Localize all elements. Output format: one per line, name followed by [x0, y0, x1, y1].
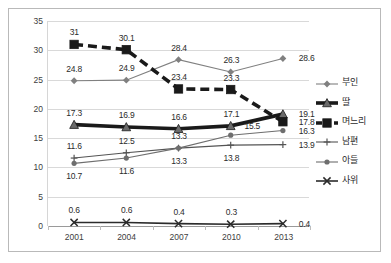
data-point-label: 30.1 — [119, 33, 135, 43]
legend-item-사위[interactable]: 사위 — [315, 170, 377, 190]
x-axis-tick-label: 2010 — [222, 232, 241, 242]
plus-marker — [227, 142, 234, 149]
plus-marker — [71, 155, 78, 162]
y-axis-tick-label: 15 — [34, 133, 43, 143]
legend-key-swatch — [315, 115, 339, 127]
x-axis-tick-mark — [153, 226, 154, 230]
series-line — [74, 44, 283, 121]
legend-label: 아들 — [342, 153, 358, 166]
data-point-label: 28.4 — [171, 43, 187, 53]
y-axis-tick-label: 25 — [34, 75, 43, 85]
data-point-label: 23.4 — [171, 72, 187, 82]
diamond-marker — [324, 80, 331, 87]
data-point-label: 0.6 — [121, 205, 132, 215]
y-axis-tick-label: 10 — [34, 162, 43, 172]
x-axis-tick-label: 2013 — [274, 232, 293, 242]
data-point-label: 24.8 — [66, 64, 82, 74]
square-marker — [279, 118, 287, 126]
data-point-label: 13.8 — [224, 153, 240, 163]
y-axis-tick-label: 30 — [34, 45, 43, 55]
data-point-label: 10.7 — [66, 171, 82, 181]
square-marker — [174, 85, 182, 93]
square-marker — [70, 40, 78, 48]
data-point-label: 17.3 — [66, 108, 82, 118]
gridline — [48, 226, 309, 227]
data-point-label: 31 — [70, 27, 79, 37]
circle-marker — [228, 133, 233, 138]
data-point-label: 17.1 — [224, 109, 240, 119]
data-point-label: 23.3 — [224, 73, 240, 83]
legend-item-부인[interactable]: 부인 — [315, 72, 377, 92]
chart-legend: 부인딸며느리남편아들사위 — [315, 72, 377, 189]
data-point-label: 12.5 — [119, 136, 135, 146]
x-axis-tick-mark — [258, 226, 259, 230]
legend-item-남편[interactable]: 남편 — [315, 131, 377, 151]
legend-label: 사위 — [342, 173, 358, 186]
circle-marker — [280, 128, 285, 133]
y-axis-tick-label: 5 — [38, 192, 43, 202]
legend-label: 남편 — [342, 134, 358, 147]
x-axis-tick-mark — [205, 226, 206, 230]
y-axis-tick-label: 20 — [34, 104, 43, 114]
data-point-label: 26.3 — [224, 55, 240, 65]
diamond-marker — [71, 77, 78, 84]
x-axis-tick-label: 2007 — [170, 232, 189, 242]
circle-marker — [324, 159, 329, 164]
data-point-label: 13.3 — [171, 131, 187, 141]
data-point-label: 13.3 — [171, 156, 187, 166]
data-point-label: 16.6 — [171, 112, 187, 122]
diamond-marker — [175, 56, 182, 63]
circle-marker — [124, 155, 129, 160]
data-point-label: 11.6 — [67, 141, 82, 151]
data-point-label: 28.6 — [299, 53, 315, 63]
y-axis-tick-label: 35 — [34, 16, 43, 26]
data-point-label: 0.6 — [69, 205, 80, 215]
legend-label: 부인 — [342, 75, 358, 88]
legend-key-swatch — [315, 76, 339, 88]
square-marker — [122, 46, 130, 54]
x-axis-tick-mark — [48, 226, 49, 230]
legend-label: 딸 — [342, 95, 350, 108]
plus-marker — [324, 139, 331, 146]
diamond-marker — [280, 55, 287, 62]
data-point-label: 16.3 — [299, 126, 315, 136]
square-marker — [227, 85, 235, 93]
legend-key-swatch — [315, 154, 339, 166]
legend-key-swatch — [315, 95, 339, 107]
data-point-label: 0.3 — [226, 207, 237, 217]
x-axis-tick-mark — [310, 226, 311, 230]
circle-marker — [176, 146, 181, 151]
legend-item-딸[interactable]: 딸 — [315, 92, 377, 112]
data-point-label: 16.9 — [119, 110, 135, 120]
data-point-label: 0.4 — [173, 207, 184, 217]
x-axis-tick-mark — [100, 226, 101, 230]
legend-label: 며느리 — [342, 114, 366, 127]
data-point-label: 11.6 — [119, 166, 134, 176]
data-point-label: 13.9 — [299, 140, 315, 150]
legend-item-아들[interactable]: 아들 — [315, 150, 377, 170]
circle-marker — [72, 161, 77, 166]
plot-area: 05101520253035 20012004200720102013 24.8… — [47, 21, 309, 226]
y-axis-tick-label: 0 — [38, 221, 43, 231]
legend-key-swatch — [315, 134, 339, 146]
data-point-label: 15.5 — [244, 121, 260, 131]
plus-marker — [123, 149, 130, 156]
square-marker — [323, 119, 331, 127]
x-axis-tick-label: 2004 — [117, 232, 136, 242]
plus-marker — [280, 141, 287, 148]
legend-key-swatch — [315, 173, 339, 185]
data-point-label: 24.9 — [119, 63, 135, 73]
legend-item-며느리[interactable]: 며느리 — [315, 111, 377, 131]
chart-frame: 05101520253035 20012004200720102013 24.8… — [8, 8, 381, 252]
x-axis-tick-label: 2001 — [65, 232, 84, 242]
diamond-marker — [123, 77, 130, 84]
data-point-label: 0.4 — [299, 219, 310, 229]
